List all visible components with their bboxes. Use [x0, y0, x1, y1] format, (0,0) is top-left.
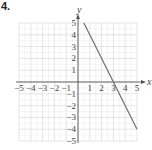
y-tick-label: −3 [66, 112, 76, 122]
x-axis-arrow-icon [141, 80, 146, 84]
x-tick-label: 3 [111, 83, 116, 93]
x-tick-label: −5 [14, 83, 24, 93]
y-tick-label: −4 [66, 124, 76, 134]
y-tick-label: −2 [66, 101, 76, 111]
y-tick-label: 4 [72, 30, 77, 40]
y-tick-label: −5 [66, 136, 76, 146]
y-tick-label: 1 [72, 65, 77, 75]
x-axis-label: x [146, 76, 152, 87]
x-tick-label: 4 [123, 83, 128, 93]
y-tick-label: 5 [72, 18, 77, 28]
y-tick-label: −1 [66, 89, 76, 99]
x-tick-label: −3 [38, 83, 48, 93]
x-tick-label: 1 [88, 83, 93, 93]
x-tick-label: 2 [99, 83, 104, 93]
coordinate-graph: xy−5−4−3−2−11234554321−1−2−3−4−5 [0, 0, 152, 150]
y-tick-label: 3 [72, 42, 77, 52]
x-tick-label: −2 [50, 83, 60, 93]
y-axis-label: y [76, 4, 82, 15]
x-tick-label: −4 [26, 83, 36, 93]
y-tick-label: 2 [72, 53, 77, 63]
x-tick-label: 5 [135, 83, 140, 93]
